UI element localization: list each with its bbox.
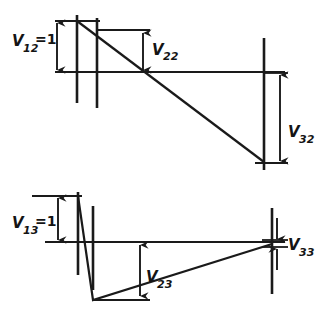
label-v33: V 33	[288, 236, 315, 259]
label-v13: V 13 =1	[12, 213, 56, 237]
label-v22-subscript: 22	[163, 50, 179, 63]
figure-root: V 12 =1 V 22 V 32	[0, 0, 326, 324]
label-v23: V 23	[146, 268, 173, 291]
lower-diagram: V 13 =1 V 23 V 33	[12, 192, 315, 300]
upper-deflection-line	[77, 21, 264, 162]
label-v32: V 32	[288, 123, 315, 146]
label-v32-subscript: 32	[299, 133, 315, 146]
label-v13-equals: =1	[35, 213, 56, 229]
label-v12-equals: =1	[35, 31, 56, 47]
lower-deflection-line	[78, 196, 272, 300]
diagram-canvas: V 12 =1 V 22 V 32	[0, 0, 326, 324]
upper-diagram: V 12 =1 V 22 V 32	[12, 15, 315, 170]
label-v12: V 12 =1	[12, 31, 56, 55]
label-v33-subscript: 33	[299, 246, 315, 259]
label-v23-subscript: 23	[157, 278, 173, 291]
label-v22: V 22	[152, 41, 179, 63]
